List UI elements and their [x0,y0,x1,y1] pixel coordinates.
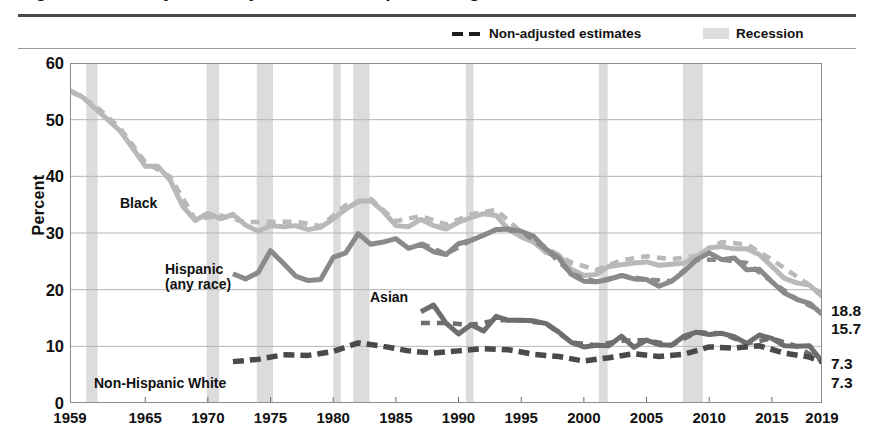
x-tick-label: 2015 [755,409,788,426]
x-tick-label: 1975 [254,409,287,426]
y-tick-label: 40 [22,167,64,186]
legend-item-non-adjusted: Non-adjusted estimates [452,26,641,41]
x-tick-label: 1959 [53,409,86,426]
page-title: Figure 4. Poverty Rates by Race and Hisp… [18,0,623,2]
legend: Non-adjusted estimates Recession [0,24,875,48]
legend-divider [18,48,856,49]
x-tick-label: 1995 [505,409,538,426]
x-tick-label: 1985 [379,409,412,426]
x-tick-label: 2005 [630,409,663,426]
legend-label-non-adjusted: Non-adjusted estimates [489,26,641,41]
chart-plot-area [70,63,822,403]
series-label-black: Black [120,196,157,211]
black-end: 18.8 [831,302,861,320]
y-axis-ticks: 0102030405060 [14,0,64,444]
recession-swatch-icon [703,28,729,39]
series-label-non-hispanic-white: Non-Hispanic White [94,376,226,391]
series-label-hispanic: Hispanic [165,262,223,277]
legend-label-recession: Recession [736,26,804,41]
dashed-line-icon [452,32,482,36]
y-tick-label: 60 [22,54,64,73]
series-label-hispanic2: (any race) [165,277,231,292]
series-line [233,343,822,362]
y-tick-label: 20 [22,280,64,299]
hispanic-end: 15.7 [831,320,861,338]
x-tick-label: 1965 [129,409,162,426]
x-tick-label: 2019 [805,409,838,426]
x-tick-label: 1970 [191,409,224,426]
y-tick-label: 10 [22,337,64,356]
figure-root: Figure 4. Poverty Rates by Race and Hisp… [0,0,875,444]
asian-end: 7.3 [831,355,853,373]
y-tick-label: 50 [22,110,64,129]
title-divider [18,14,856,17]
legend-item-recession: Recession [703,26,804,41]
white-end: 7.3 [831,374,853,392]
series-label-asian: Asian [370,290,408,305]
x-tick-label: 2000 [567,409,600,426]
x-tick-label: 1980 [317,409,350,426]
x-tick-label: 2010 [693,409,726,426]
x-tick-label: 1990 [442,409,475,426]
y-tick-label: 30 [22,224,64,243]
